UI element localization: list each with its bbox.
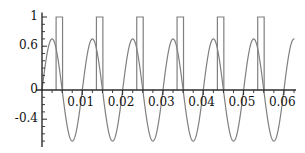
y-tick-label: 1	[30, 10, 38, 22]
chart-container: 10.60-0.4 0.010.020.030.040.050.06	[0, 0, 305, 153]
x-tick-label: 0.01	[67, 96, 94, 108]
x-tick-label: 0.02	[108, 96, 135, 108]
y-tick-label: 0.6	[19, 39, 38, 51]
x-tick-label: 0.05	[229, 96, 256, 108]
y-tick-label: -0.4	[15, 112, 38, 124]
x-tick-label: 0.03	[148, 96, 175, 108]
y-tick-label: 0	[30, 83, 38, 95]
x-tick-label: 0.04	[188, 96, 215, 108]
x-tick-label: 0.06	[269, 96, 296, 108]
chart-plot-area	[0, 0, 305, 153]
